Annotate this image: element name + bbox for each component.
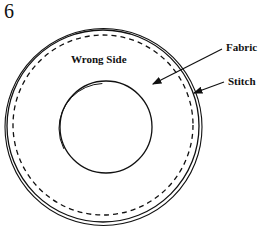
stitch-label: Stitch: [228, 75, 256, 87]
step-number: 6: [4, 0, 14, 22]
inner-circle-secondary: [59, 84, 149, 174]
sewing-step-diagram: 6 Wrong Side Fabric Stitch: [0, 0, 264, 227]
wrong-side-label: Wrong Side: [71, 53, 127, 65]
stitch-arrow-icon: [194, 82, 224, 93]
fabric-arrow-icon: [153, 49, 222, 84]
fabric-label: Fabric: [226, 41, 257, 53]
